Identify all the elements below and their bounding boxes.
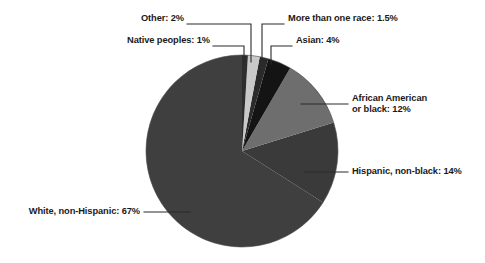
label-white-text: White, non-Hispanic: 67%	[14, 206, 140, 217]
label-asian: Asian: 4%	[296, 35, 340, 46]
pie-slices	[146, 55, 338, 247]
label-native-peoples: Native peoples: 1%	[86, 35, 210, 46]
label-hispanic-text: Hispanic, non-black: 14%	[352, 166, 462, 177]
label-native-peoples-text: Native peoples: 1%	[86, 35, 210, 46]
label-white: White, non-Hispanic: 67%	[14, 206, 140, 217]
label-african-american-line2: or black: 12%	[352, 104, 427, 115]
label-african-american-line1: African American	[352, 93, 427, 104]
leader-line-more-than-one-race	[262, 24, 284, 62]
pie-chart-figure: Other: 2% More than one race: 1.5% Nativ…	[0, 0, 485, 263]
label-more-than-one-race-text: More than one race: 1.5%	[288, 13, 398, 24]
pie-chart-canvas	[0, 0, 485, 263]
label-hispanic: Hispanic, non-black: 14%	[352, 166, 462, 177]
label-other: Other: 2%	[60, 13, 184, 24]
label-more-than-one-race: More than one race: 1.5%	[288, 13, 398, 24]
label-other-text: Other: 2%	[60, 13, 184, 24]
label-asian-text: Asian: 4%	[296, 35, 340, 46]
label-african-american: African American or black: 12%	[352, 93, 427, 116]
